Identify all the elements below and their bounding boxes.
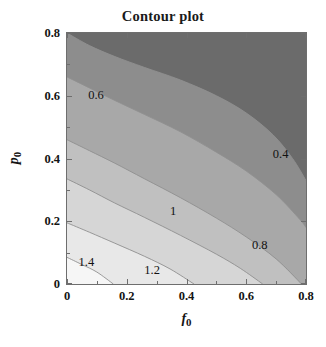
y-tick-label: 0.6 [44,88,60,103]
x-tick-mark [187,279,188,284]
y-axis-title: p0 [6,152,23,164]
y-tick-label: 0.8 [44,26,60,41]
y-tick-mark [301,283,306,284]
y-tick-mark [301,159,306,160]
y-tick-mark-minor [67,33,70,34]
x-tick-label: 0.2 [119,289,135,304]
x-tick-mark-minor [276,281,277,284]
x-tick-mark-minor [216,281,217,284]
x-tick-label: 0.4 [179,289,195,304]
y-tick-mark-minor [67,253,70,254]
contour-plot-figure: Contour plot 0.40.60.811.21.4 00.20.40.6… [0,0,326,347]
contour-canvas [67,33,306,284]
x-tick-mark-minor [157,281,158,284]
y-tick-mark [67,159,72,160]
y-tick-mark [301,221,306,222]
x-tick-mark [246,279,247,284]
y-tick-mark-minor [67,190,70,191]
y-tick-label: 0.4 [44,151,60,166]
x-tick-mark [127,33,128,38]
y-tick-mark-minor [67,64,70,65]
y-tick-label: 0.2 [44,214,60,229]
x-tick-label: 0.8 [298,289,314,304]
x-tick-label: 0.6 [238,289,254,304]
x-tick-mark [246,33,247,38]
y-tick-mark [67,96,72,97]
x-tick-mark-minor [306,281,307,284]
y-tick-mark [67,283,72,284]
x-tick-mark [187,33,188,38]
x-tick-mark [127,279,128,284]
y-tick-mark [301,33,306,34]
x-axis-title: f0 [66,311,307,328]
x-axis-subscript: 0 [186,316,191,328]
y-axis-variable: p [6,157,21,164]
page-title: Contour plot [0,8,326,25]
x-tick-mark-minor [97,281,98,284]
y-tick-mark [301,96,306,97]
x-tick-label: 0 [64,289,70,304]
y-tick-mark-minor [67,127,70,128]
y-tick-label: 0 [54,277,60,292]
y-tick-mark [67,221,72,222]
y-axis-subscript: 0 [11,152,23,157]
plot-area: 0.40.60.811.21.4 [66,32,307,285]
